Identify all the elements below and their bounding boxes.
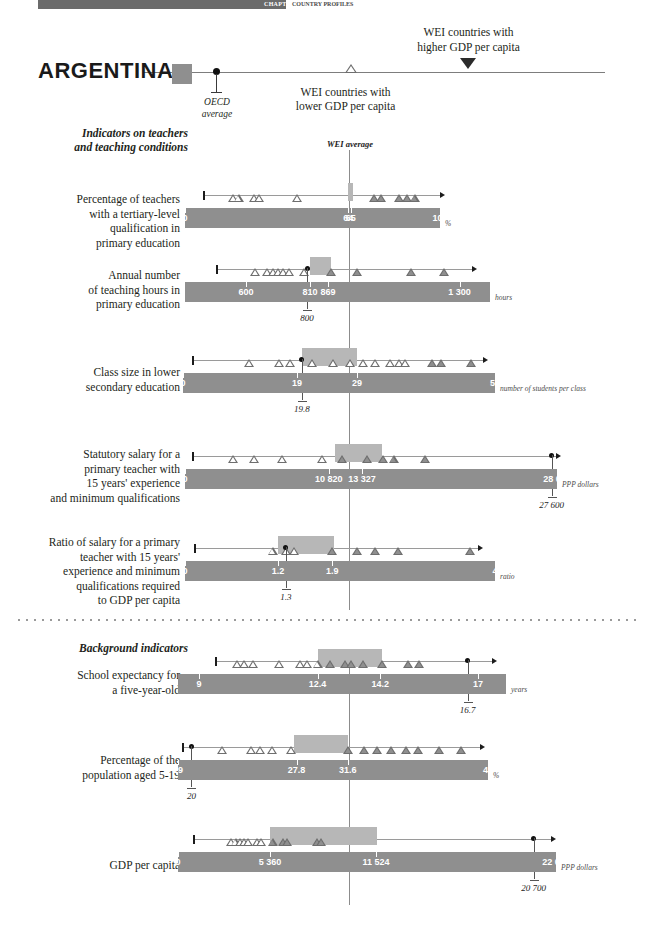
axis-tick-label: 4 [492, 566, 497, 576]
oecd-average-stem [216, 74, 217, 93]
wei-country-marker-icon [250, 268, 260, 276]
wei-country-marker-icon [466, 359, 476, 367]
indicator-scale-bar: 0192952 [183, 373, 495, 393]
indicator-scale-bar: 6008108691 300 [185, 282, 490, 302]
wei-country-marker-icon [406, 268, 416, 276]
axis-tick-label: 0 [180, 378, 185, 388]
oecd-average-value: 20 [187, 791, 196, 801]
wei-higher-legend-label: WEI countries with higher GDP per capita [381, 25, 556, 55]
axis-tick-label: 0 [182, 213, 187, 223]
wei-country-marker-icon [436, 359, 446, 367]
oecd-legend-line2: average [202, 109, 233, 119]
wei-country-marker-icon [268, 547, 278, 555]
wei-country-marker-icon [328, 359, 338, 367]
country-range-highlight [348, 183, 353, 201]
wei-country-marker-icon [302, 660, 312, 668]
wei-country-marker-icon [289, 547, 299, 555]
indicator-unit: ratio [500, 572, 515, 581]
indicator-label: Percentage of the population aged 5-19 [5, 753, 180, 782]
axis-tick-label: 9 [196, 679, 201, 689]
indicator-label: GDP per capita [5, 858, 180, 873]
wei-country-marker-icon [268, 838, 278, 846]
axis-tick-label: 42 [483, 765, 493, 775]
axis-tick-label: 1.2 [272, 566, 285, 576]
oecd-average-value: 16.7 [460, 705, 476, 715]
wei-country-marker-icon [358, 660, 368, 668]
section-title-background: Background indicators [28, 641, 188, 655]
range-min-cap [182, 743, 184, 752]
axis-tick-label: 600 [238, 287, 253, 297]
wei-country-marker-icon [345, 359, 355, 367]
wei-country-marker-icon [389, 455, 399, 463]
range-min-cap [216, 265, 218, 274]
oecd-average-value: 20 700 [521, 883, 546, 893]
wei-country-marker-icon [386, 746, 396, 754]
range-min-cap [203, 191, 205, 200]
indicator-scale-bar: 912.414.217 [178, 674, 506, 694]
indicator-unit: number of students per class [500, 384, 586, 393]
wei-country-marker-icon [326, 268, 336, 276]
oecd-average-marker-foot [530, 880, 539, 881]
indicator-label: Statutory salary for a primary teacher w… [5, 447, 180, 505]
indicator-unit: % [445, 219, 451, 228]
wei-country-marker-icon [372, 746, 382, 754]
oecd-average-marker-foot [464, 702, 473, 703]
indicator-scale-bar: 06465100 [185, 208, 440, 228]
range-max-arrow-icon [472, 266, 477, 272]
indicator-label: Class size in lower secondary education [5, 365, 180, 394]
range-max-arrow-icon [478, 545, 483, 551]
wei-country-marker-icon [377, 660, 387, 668]
axis-tick-label: 14.2 [372, 679, 390, 689]
oecd-legend-line1: OECD [204, 97, 230, 107]
oecd-average-marker-foot [187, 788, 196, 789]
indicator-unit: % [493, 771, 499, 780]
axis-tick-label: 19 [292, 378, 302, 388]
page-title: ARGENTINA [38, 58, 173, 84]
wei-country-marker-icon [420, 455, 430, 463]
axis-tick-label: 17 [473, 679, 483, 689]
indicator-unit: PPP dollars [562, 480, 599, 489]
wei-country-marker-icon [255, 746, 265, 754]
axis-tick-label: 10 820 [315, 474, 343, 484]
wei-country-marker-icon [317, 455, 327, 463]
axis-tick-label: 12.4 [309, 679, 327, 689]
wei-country-marker-icon [285, 359, 295, 367]
wei-country-marker-icon [358, 359, 368, 367]
wei-country-marker-icon [434, 746, 444, 754]
indicator-scale-bar: 010 82013 32728 000 [185, 469, 557, 489]
axis-tick-label: 13 327 [348, 474, 376, 484]
wei-country-marker-icon [370, 547, 380, 555]
wei-country-marker-icon [456, 746, 466, 754]
range-min-cap [215, 657, 217, 666]
axis-tick-label: 29 [352, 378, 362, 388]
indicator-label: Percentage of teachers with a tertiary-l… [5, 192, 180, 250]
oecd-average-value: 800 [300, 313, 314, 323]
range-max-arrow-icon [440, 192, 445, 198]
range-max-arrow-icon [483, 357, 488, 363]
wei-country-marker-icon [282, 838, 292, 846]
axis-tick-label: 0 [182, 566, 187, 576]
wei-country-marker-icon [313, 660, 323, 668]
axis-tick-label: 27.8 [288, 765, 306, 775]
axis-tick-label: 1 300 [448, 287, 471, 297]
wei-country-marker-icon [400, 359, 410, 367]
range-max-arrow-icon [556, 453, 561, 459]
wei-country-marker-icon [362, 455, 372, 463]
axis-tick-label: 0 [182, 474, 187, 484]
range-max-arrow-icon [492, 658, 497, 664]
wei-country-marker-icon [343, 746, 353, 754]
wei-country-marker-icon [267, 746, 277, 754]
oecd-average-foot [211, 92, 222, 93]
wei-higher-triangle-icon [460, 58, 476, 69]
wei-country-marker-icon [254, 194, 264, 202]
wei-country-marker-icon [414, 660, 424, 668]
wei-country-marker-icon [217, 746, 227, 754]
indicator-unit: hours [495, 293, 512, 302]
chapter-bar: CHAPTER 4 [38, 0, 286, 9]
indicator-unit: PPP dollars [561, 863, 598, 872]
indicator-scale-bar: 01.21.94 [185, 561, 495, 581]
range-min-cap [192, 356, 194, 365]
wei-country-marker-icon [274, 359, 284, 367]
range-max-arrow-icon [551, 836, 556, 842]
section-title-teachers: Indicators on teachers and teaching cond… [28, 126, 188, 154]
